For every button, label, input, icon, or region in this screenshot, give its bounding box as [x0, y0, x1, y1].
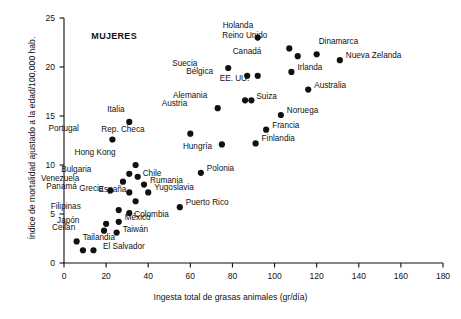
data-point[interactable] [145, 189, 151, 195]
data-point[interactable] [255, 73, 261, 79]
x-tick-label: 20 [101, 271, 111, 281]
data-point-label: Australia [314, 81, 346, 90]
data-point[interactable] [337, 57, 343, 63]
data-point-label: Austria [162, 99, 187, 108]
data-point-label: Tailandia [83, 233, 115, 242]
y-tick-label: 20 [46, 62, 56, 72]
data-point[interactable] [314, 51, 320, 57]
x-tick-label: 80 [228, 271, 238, 281]
data-point-label: Polonia [207, 164, 234, 173]
data-point[interactable] [198, 170, 204, 176]
data-point[interactable] [278, 112, 284, 118]
data-point[interactable] [242, 97, 248, 103]
y-tick-label: 15 [46, 111, 56, 121]
data-point[interactable] [126, 171, 132, 177]
data-point-label: Dinamarca [319, 37, 359, 46]
data-point[interactable] [132, 198, 138, 204]
data-point-label: El Salvador [103, 242, 145, 251]
data-point-label: Venezuela [41, 174, 79, 183]
data-point-label: Taiwán [123, 225, 149, 234]
data-point[interactable] [263, 127, 269, 133]
data-point[interactable] [141, 182, 147, 188]
y-axis-title: Índice de mortalidad ajustado a la edad/… [27, 13, 37, 263]
data-point[interactable] [90, 247, 96, 253]
data-point-label: Italia [107, 105, 124, 114]
data-point[interactable] [135, 174, 141, 180]
data-point[interactable] [116, 219, 122, 225]
data-point[interactable] [253, 140, 259, 146]
data-point-label: España [99, 185, 127, 194]
data-point-label: Bélgica [186, 67, 213, 76]
data-point[interactable] [109, 136, 115, 142]
data-point-label: Francia [272, 121, 299, 130]
data-point-label: Reino Unido [222, 31, 267, 40]
data-point[interactable] [295, 53, 301, 59]
plot-canvas: 0204060801001201401601800510152025 [0, 0, 461, 319]
scatter-chart-figure: 0204060801001201401601800510152025 MUJER… [0, 0, 461, 319]
data-point-label: Ceilán [52, 223, 75, 232]
y-tick-label: 25 [46, 13, 56, 23]
x-tick-label: 180 [436, 271, 450, 281]
data-point[interactable] [215, 105, 221, 111]
y-tick-label: 0 [50, 258, 55, 268]
data-point[interactable] [74, 238, 80, 244]
data-point-label: Suiza [256, 92, 276, 101]
x-tick-label: 40 [143, 271, 153, 281]
x-tick-label: 140 [352, 271, 366, 281]
data-point[interactable] [248, 97, 254, 103]
data-point[interactable] [120, 179, 126, 185]
x-tick-label: 100 [267, 271, 281, 281]
data-point-label: Rep. Checa [101, 125, 144, 134]
data-point[interactable] [177, 204, 183, 210]
data-point-label: Portugal [48, 124, 79, 133]
x-tick-label: 160 [394, 271, 408, 281]
data-point[interactable] [187, 131, 193, 137]
data-point-label: Holanda [223, 21, 254, 30]
data-point[interactable] [219, 141, 225, 147]
data-point-label: Noruega [287, 106, 318, 115]
data-point-label: Filipinas [51, 202, 81, 211]
x-tick-label: 60 [186, 271, 196, 281]
x-tick-label: 0 [62, 271, 67, 281]
x-axis-title: Ingesta total de grasas animales (gr/día… [0, 292, 461, 302]
data-point[interactable] [126, 189, 132, 195]
data-point-label: Panamá [46, 182, 77, 191]
data-point[interactable] [286, 45, 292, 51]
data-point-label: México [125, 213, 151, 222]
data-point-label: Irlanda [297, 63, 322, 72]
data-point[interactable] [116, 207, 122, 213]
chart-annotation-mujeres: MUJERES [91, 31, 137, 41]
x-tick-label: 120 [310, 271, 324, 281]
y-tick-label: 10 [46, 160, 56, 170]
data-point-label: Finlandia [262, 134, 295, 143]
data-point[interactable] [288, 69, 294, 75]
data-point-label: Bulgaria [61, 165, 91, 174]
data-point[interactable] [103, 221, 109, 227]
data-point-label: Nueva Zelanda [346, 51, 402, 60]
data-point[interactable] [132, 162, 138, 168]
data-point-label: Yugoslavia [154, 183, 194, 192]
data-point[interactable] [305, 86, 311, 92]
data-point-label: Canadá [233, 47, 262, 56]
data-point-label: Hungría [183, 142, 212, 151]
data-point-label: Puerto Rico [186, 198, 229, 207]
data-point-label: Hong Kong [75, 148, 116, 157]
data-point-label: EE. UU. [220, 74, 250, 83]
data-point[interactable] [80, 247, 86, 253]
data-point[interactable] [225, 65, 231, 71]
